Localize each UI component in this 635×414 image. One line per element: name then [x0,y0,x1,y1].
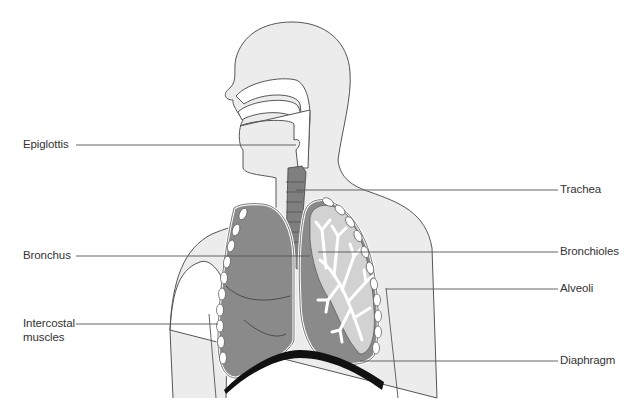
label-bronchus: Bronchus [23,249,71,262]
label-intercostal-line1: Intercostal [23,317,75,330]
label-intercostal-line2: muscles [23,331,64,344]
lung-left [218,204,294,378]
label-epiglottis: Epiglottis [23,138,69,151]
label-trachea: Trachea [560,183,601,196]
label-bronchioles: Bronchioles [560,245,619,258]
respiratory-diagram [0,0,635,414]
label-alveoli: Alveoli [560,282,593,295]
label-diaphragm: Diaphragm [560,354,615,367]
